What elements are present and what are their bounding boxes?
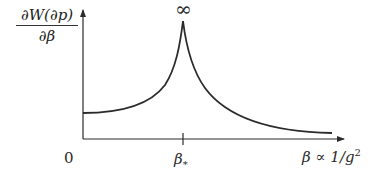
x-axis-label: β ∝ 1/g2 (302, 148, 361, 166)
x-axis-label-superscript: 2 (355, 147, 361, 158)
beta-star-subscript: * (183, 159, 188, 170)
curve-right-branch (183, 21, 332, 133)
y-axis-label-numerator: ∂W(∂p) (16, 6, 78, 26)
beta-star-base: β (174, 150, 183, 168)
y-axis-label: ∂W(∂p) ∂β (16, 6, 78, 45)
beta-star-label: β* (174, 150, 188, 168)
origin-label: 0 (64, 149, 74, 167)
x-axis-label-text: β ∝ 1/g (302, 148, 355, 166)
infinity-label: ∞ (175, 0, 192, 21)
curve-left-branch (83, 21, 183, 113)
y-axis-label-denominator: ∂β (16, 26, 78, 45)
